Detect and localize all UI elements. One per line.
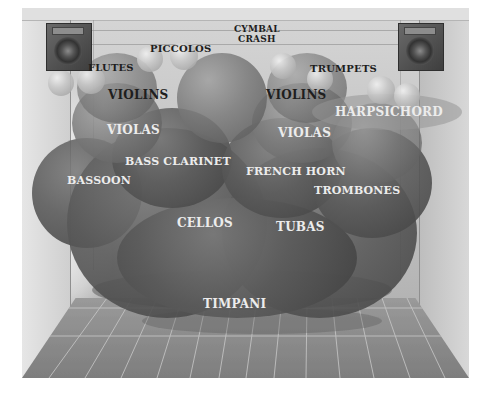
label-bassoon: BASSOON — [67, 174, 131, 187]
ceiling — [22, 8, 469, 21]
label-cymbal-crash: CYMBAL CRASH — [234, 24, 280, 44]
label-trumpets: TRUMPETS — [310, 63, 377, 74]
label-piccolos: PICCOLOS — [150, 43, 211, 54]
sound-stage: CYMBAL CRASH PICCOLOS FLUTES TRUMPETS VI… — [22, 8, 469, 378]
ceiling-line — [70, 44, 419, 45]
label-violas-left: VIOLAS — [107, 123, 160, 137]
sphere-flutes-1 — [48, 70, 74, 96]
left-speaker-icon — [46, 23, 92, 71]
label-violins-left: VIOLINS — [108, 88, 168, 102]
label-trombones: TROMBONES — [314, 184, 400, 197]
label-crash: CRASH — [234, 34, 280, 44]
label-bass-clarinet: BASS CLARINET — [125, 155, 231, 168]
right-speaker-icon — [398, 23, 444, 71]
speaker-cone — [406, 37, 434, 65]
label-timpani: TIMPANI — [203, 297, 266, 311]
label-french-horn: FRENCH HORN — [246, 165, 346, 178]
sphere-trumpets-2 — [367, 76, 395, 104]
speaker-panel — [404, 27, 436, 35]
speaker-cone — [54, 37, 82, 65]
speaker-panel — [52, 27, 84, 35]
label-flutes: FLUTES — [88, 62, 134, 73]
label-tubas: TUBAS — [276, 220, 325, 234]
label-violas-right: VIOLAS — [278, 126, 331, 140]
label-violins-right: VIOLINS — [266, 88, 326, 102]
label-cymbal: CYMBAL — [234, 24, 280, 34]
sphere-cymbal — [270, 53, 296, 79]
label-harpsichord: HARPSICHORD — [335, 105, 443, 119]
label-cellos: CELLOS — [177, 216, 233, 230]
